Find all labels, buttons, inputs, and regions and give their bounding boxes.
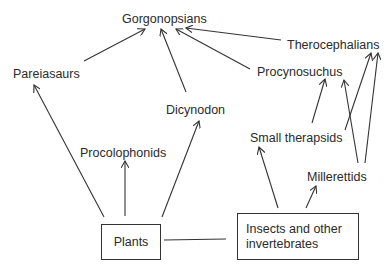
node-plants: Plants [101,224,161,260]
edge-small-therapsids-procynosuchus [312,79,325,123]
edge-small-therapsids-therocephalians [345,53,371,130]
edge-pareiasaurs-gorgonopsians [84,29,145,61]
edge-millerettids-therocephalians [365,53,378,163]
node-insects-label: Insects and other invertebrates [246,222,346,252]
node-millerettids: Millerettids [307,171,367,184]
node-procynosuchus: Procynosuchus [257,66,342,79]
edge-dicynodon-gorgonopsians [161,29,186,92]
node-plants-label: Plants [114,235,149,250]
node-insects: Insects and other invertebrates [237,213,359,260]
edge-therocephalians-gorgonopsians [186,28,281,40]
node-gorgonopsians: Gorgonopsians [122,13,207,26]
edge-insects-millerettids [306,186,316,208]
edge-millerettids-procynosuchus [344,80,358,163]
edge-plants-dicynodon [162,121,199,217]
edge-plants-insects [164,239,226,240]
node-small-therapsids: Small therapsids [250,132,342,145]
node-pareiasaurs: Pareiasaurs [13,68,80,81]
node-therocephalians: Therocephalians [287,39,379,52]
node-dicynodon: Dicynodon [166,104,225,117]
node-procolophonids: Procolophonids [80,147,166,160]
edge-insects-small-therapsids [259,147,278,208]
